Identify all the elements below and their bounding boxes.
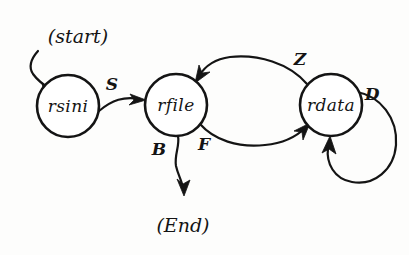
f-edge-path	[200, 124, 305, 146]
start-terminal-label: (start)	[48, 25, 108, 47]
state-diagram-canvas: rsini rfile rdata S Z F B D (start) (End…	[0, 0, 409, 255]
d-loop-arrow-head	[322, 136, 336, 154]
edge-rsini-to-rfile	[99, 94, 146, 111]
edge-rdata-to-rfile	[195, 56, 307, 84]
b-edge-path	[176, 136, 183, 188]
rdata-label: rdata	[307, 95, 355, 115]
node-rfile[interactable]: rfile	[145, 74, 207, 136]
rsini-label: rsini	[48, 96, 89, 116]
z-arrow-head	[195, 65, 210, 83]
node-rsini[interactable]: rsini	[37, 75, 99, 137]
z-edge-path	[199, 56, 307, 84]
edge-label-s: S	[106, 74, 118, 94]
node-rdata[interactable]: rdata	[300, 74, 362, 136]
end-terminal-label: (End)	[156, 214, 209, 236]
edge-rfile-to-rdata	[200, 123, 310, 146]
edge-label-f: F	[197, 134, 212, 154]
edge-rfile-to-end	[176, 136, 190, 196]
b-arrow-head	[177, 179, 190, 196]
rfile-label: rfile	[157, 95, 194, 115]
s-arrow-head	[129, 94, 146, 105]
edge-label-d: D	[364, 84, 380, 104]
edge-label-b: B	[151, 139, 166, 159]
edge-label-z: Z	[293, 49, 307, 69]
fsm-svg: rsini rfile rdata S Z F B D (start) (End…	[0, 0, 409, 255]
